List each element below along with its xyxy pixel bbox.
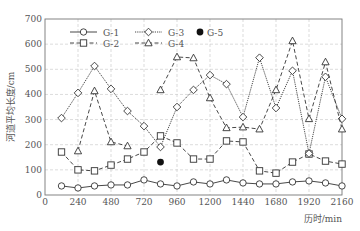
legend-label: G-2 — [103, 39, 119, 49]
square-marker-icon — [190, 156, 196, 162]
x-tick-label: 2160 — [331, 197, 354, 207]
circle-marker-icon — [240, 180, 246, 186]
diamond-marker-icon — [223, 80, 231, 88]
triangle-marker-icon — [305, 115, 312, 122]
circle-marker-icon — [306, 178, 312, 184]
triangle-marker-icon — [91, 87, 98, 94]
circle-marker-icon — [141, 177, 147, 183]
square-marker-icon — [240, 139, 246, 145]
square-marker-icon — [273, 170, 279, 176]
triangle-marker-icon — [206, 94, 213, 101]
circle-marker-icon — [174, 183, 180, 189]
y-tick-label: 200 — [25, 140, 42, 150]
square-marker-icon — [207, 156, 213, 162]
filled-circle-marker-icon — [197, 29, 204, 36]
circle-marker-icon — [273, 181, 279, 187]
y-tick-label: 400 — [25, 89, 42, 99]
plot-frame — [45, 19, 342, 195]
diamond-marker-icon — [256, 54, 264, 62]
grid — [45, 19, 342, 195]
triangle-marker-icon — [145, 39, 152, 46]
circle-marker-icon — [75, 185, 81, 191]
legend: G-1G-2G-3G-4G-5 — [70, 28, 223, 49]
square-marker-icon — [108, 162, 114, 168]
circle-marker-icon — [157, 181, 163, 187]
square-marker-icon — [223, 138, 229, 144]
circle-marker-icon — [339, 183, 345, 189]
y-tick-label: 300 — [25, 115, 42, 125]
square-marker-icon — [256, 168, 262, 174]
circle-marker-icon — [289, 179, 295, 185]
square-marker-icon — [91, 168, 97, 174]
square-marker-icon — [289, 159, 295, 165]
triangle-marker-icon — [239, 123, 246, 130]
circle-marker-icon — [190, 179, 196, 185]
circle-marker-icon — [91, 183, 97, 189]
line-chart: 0100200300400500600700024048072096012001… — [0, 0, 360, 231]
y-axis-label: 河道平均长度/cm — [5, 71, 16, 142]
series-line-G-2 — [62, 136, 343, 173]
x-tick-label: 0 — [42, 197, 48, 207]
y-tick-label: 700 — [25, 14, 42, 24]
series-line-G-4 — [78, 91, 128, 151]
triangle-marker-icon — [74, 147, 81, 154]
circle-marker-icon — [223, 177, 229, 183]
diamond-marker-icon — [91, 62, 99, 70]
triangle-marker-icon — [338, 125, 345, 132]
diamond-marker-icon — [272, 104, 280, 112]
axes: 0100200300400500600700024048072096012001… — [25, 14, 354, 207]
legend-label: G-5 — [207, 28, 223, 38]
circle-marker-icon — [322, 180, 328, 186]
square-marker-icon — [339, 161, 345, 167]
square-marker-icon — [80, 40, 86, 46]
triangle-marker-icon — [272, 86, 279, 93]
diamond-marker-icon — [289, 67, 297, 75]
triangle-marker-icon — [107, 138, 114, 145]
x-axis-label: 历时/min — [304, 213, 342, 224]
diamond-marker-icon — [74, 89, 82, 97]
series-line-G-1 — [62, 180, 343, 188]
series-layer — [58, 37, 346, 191]
diamond-marker-icon — [58, 114, 66, 122]
series-line-G-4 — [161, 41, 343, 129]
square-marker-icon — [322, 158, 328, 164]
circle-marker-icon — [207, 181, 213, 187]
circle-marker-icon — [256, 181, 262, 187]
x-tick-label: 1440 — [232, 197, 255, 207]
square-marker-icon — [174, 140, 180, 146]
x-tick-label: 1680 — [265, 197, 288, 207]
square-marker-icon — [124, 156, 130, 162]
y-tick-label: 100 — [25, 165, 42, 175]
square-marker-icon — [157, 133, 163, 139]
square-marker-icon — [58, 149, 64, 155]
square-marker-icon — [75, 167, 81, 173]
legend-label: G-3 — [168, 28, 184, 38]
diamond-marker-icon — [157, 143, 165, 151]
circle-marker-icon — [58, 183, 64, 189]
y-tick-label: 600 — [25, 39, 42, 49]
x-tick-label: 960 — [168, 197, 185, 207]
diamond-marker-icon — [145, 28, 153, 36]
filled-circle-marker-icon — [157, 159, 164, 166]
circle-marker-icon — [108, 182, 114, 188]
x-tick-label: 1920 — [298, 197, 321, 207]
circle-marker-icon — [80, 29, 86, 35]
triangle-marker-icon — [289, 37, 296, 44]
circle-marker-icon — [124, 182, 130, 188]
x-tick-label: 240 — [69, 197, 86, 207]
x-tick-label: 480 — [102, 197, 119, 207]
diamond-marker-icon — [107, 85, 115, 93]
square-marker-icon — [141, 149, 147, 155]
x-tick-label: 720 — [135, 197, 152, 207]
triangle-marker-icon — [322, 58, 329, 65]
legend-label: G-4 — [168, 39, 184, 49]
y-tick-label: 500 — [25, 64, 42, 74]
triangle-marker-icon — [256, 125, 263, 132]
legend-label: G-1 — [103, 28, 119, 38]
triangle-marker-icon — [157, 86, 164, 93]
series-line-G-3 — [62, 58, 343, 154]
triangle-marker-icon — [173, 53, 180, 60]
x-tick-label: 1200 — [199, 197, 222, 207]
triangle-marker-icon — [190, 54, 197, 61]
